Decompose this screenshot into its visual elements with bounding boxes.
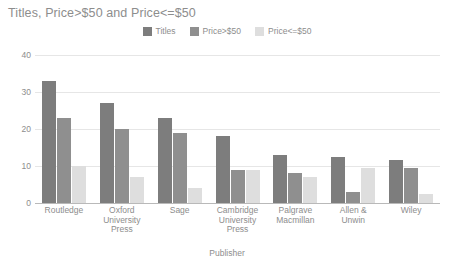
bar[interactable] [231,170,245,203]
chart-legend: TitlesPrice>$50Price<=$50 [0,26,454,36]
bar[interactable] [42,81,56,203]
bar[interactable] [331,157,345,203]
bar[interactable] [57,118,71,203]
bar[interactable] [188,188,202,203]
y-axis-tick-label: 30 [5,87,31,97]
x-axis-tick-label: CambridgeUniversityPress [209,206,267,235]
x-axis-tick-labels: RoutledgeOxfordUniversityPressSageCambri… [35,206,440,235]
bar[interactable] [72,166,86,203]
x-axis-tick-label: Sage [151,206,209,235]
bar[interactable] [130,177,144,203]
bar-groups [35,55,440,203]
chart-title: Titles, Price>$50 and Price<=$50 [8,6,196,20]
bar[interactable] [288,173,302,203]
bar-group [324,55,382,203]
bar-group [151,55,209,203]
legend-label: Price>$50 [203,26,242,36]
bar[interactable] [100,103,114,203]
bar-group [266,55,324,203]
legend-swatch-icon [143,27,152,36]
y-axis-tick-label: 40 [5,50,31,60]
legend-item-1[interactable]: Price>$50 [190,26,242,36]
legend-item-2[interactable]: Price<=$50 [255,26,311,36]
bar[interactable] [115,129,129,203]
legend-swatch-icon [255,27,264,36]
bar-group [382,55,440,203]
x-axis-line [35,203,440,204]
bar[interactable] [389,160,403,203]
bar[interactable] [404,168,418,203]
bar-group [209,55,267,203]
bar-group [35,55,93,203]
bar[interactable] [346,192,360,203]
x-axis-tick-label: Routledge [35,206,93,235]
bar-group [93,55,151,203]
bar[interactable] [303,177,317,203]
y-axis-tick-label: 10 [5,161,31,171]
x-axis-tick-label: Allen &Unwin [324,206,382,235]
y-axis: 010203040 [0,55,31,203]
bar[interactable] [419,194,433,203]
x-axis-tick-label: OxfordUniversityPress [93,206,151,235]
x-axis-tick-label: Wiley [382,206,440,235]
y-axis-tick-label: 0 [5,198,31,208]
x-axis-title: Publisher [0,248,454,258]
bar[interactable] [173,133,187,203]
legend-label: Price<=$50 [268,26,311,36]
bar[interactable] [273,155,287,203]
bar-chart: Titles, Price>$50 and Price<=$50 TitlesP… [0,0,454,267]
bar[interactable] [246,170,260,203]
legend-item-0[interactable]: Titles [143,26,176,36]
y-axis-tick-label: 20 [5,124,31,134]
legend-label: Titles [156,26,176,36]
bar[interactable] [361,168,375,203]
x-axis-tick-label: PalgraveMacmillan [266,206,324,235]
bar[interactable] [158,118,172,203]
bar[interactable] [216,136,230,203]
legend-swatch-icon [190,27,199,36]
